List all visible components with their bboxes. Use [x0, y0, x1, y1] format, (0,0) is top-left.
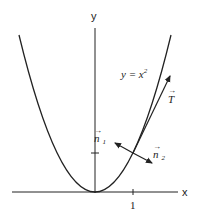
x-axis-label: x	[182, 186, 188, 198]
curve-label: y = x2	[120, 67, 148, 80]
normal1-vector-arrow	[115, 143, 133, 153]
y-axis-label: y	[91, 10, 97, 22]
diagram-canvas: y x 1 y = x2 T → n1 → n2 →	[0, 0, 199, 219]
tangent-vector-arrow	[133, 76, 170, 153]
normal2-vector-arrow	[133, 153, 152, 163]
x-tick-label: 1	[130, 199, 136, 211]
normal2-arrow-accent: →	[153, 142, 161, 151]
tangent-arrow-accent: →	[168, 86, 176, 95]
normal1-arrow-accent: →	[94, 126, 102, 135]
